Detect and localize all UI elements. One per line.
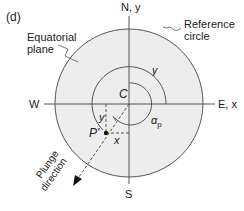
center-label: C <box>119 88 128 100</box>
x-offset-label: x <box>114 134 120 146</box>
east-label: E, x <box>218 98 237 110</box>
reference-circle-line2: circle <box>184 30 235 42</box>
alpha-p-label: αp <box>151 114 162 131</box>
reference-leader <box>163 27 181 31</box>
equatorial-plane-line1: Equatorial <box>27 31 77 43</box>
equatorial-plane-line2: plane <box>27 43 77 55</box>
point-p-prime <box>104 131 108 135</box>
panel-label: (d) <box>6 11 21 23</box>
gamma-label: γ <box>152 64 158 76</box>
reference-circle-label: Reference circle <box>184 18 235 42</box>
reference-circle-line1: Reference <box>184 18 235 30</box>
north-label: N, y <box>121 1 141 13</box>
point-label: P' <box>89 127 99 139</box>
alpha-subscript: p <box>157 120 161 129</box>
y-offset-label: y <box>99 111 105 123</box>
equatorial-plane-label: Equatorial plane <box>27 31 77 55</box>
west-label: W <box>29 98 39 110</box>
plunge-arrowhead <box>73 175 82 186</box>
south-label: S <box>125 188 132 200</box>
